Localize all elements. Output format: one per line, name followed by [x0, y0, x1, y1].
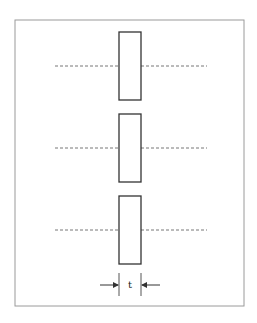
thickness-dimension: t [100, 273, 160, 296]
plate-rectangle [119, 114, 141, 182]
plate-3 [55, 196, 207, 264]
thickness-label: t [128, 279, 132, 290]
plate-rectangle [119, 32, 141, 100]
plate-2 [55, 114, 207, 182]
plate-rectangle [119, 196, 141, 264]
plates-group [55, 32, 207, 264]
plate-1 [55, 32, 207, 100]
diagram-canvas: t [0, 0, 257, 323]
